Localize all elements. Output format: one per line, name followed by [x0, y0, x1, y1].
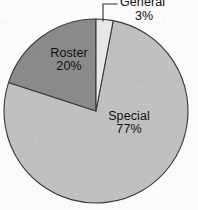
- pie-label-general-value: 3%: [135, 10, 165, 23]
- pie-chart-figure: General 3% Roster 20% Special 77%: [0, 0, 198, 210]
- pie-chart-canvas: [0, 0, 198, 210]
- pie-label-special-value: 77%: [98, 123, 160, 136]
- pie-label-general-name: General: [120, 0, 165, 9]
- pie-label-roster-value: 20%: [38, 60, 100, 73]
- pie-label-special: Special 77%: [98, 110, 160, 136]
- pie-label-roster: Roster 20%: [38, 47, 100, 73]
- pie-label-general: General 3%: [118, 0, 165, 23]
- general-callout-leader-line: [103, 4, 117, 21]
